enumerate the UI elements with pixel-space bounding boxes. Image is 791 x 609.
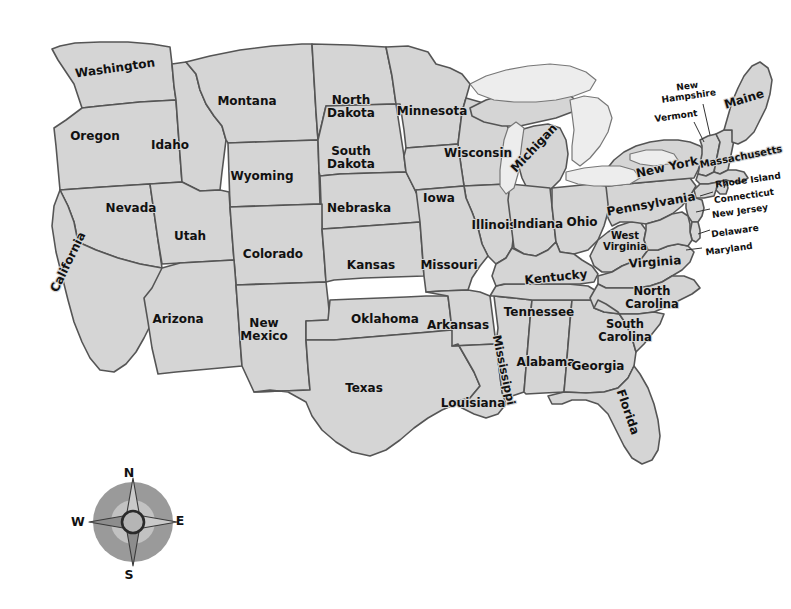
label-line: Oregon — [70, 129, 120, 143]
state-label-new-jersey[interactable]: New Jersey — [711, 202, 768, 220]
leader-vermont — [694, 122, 704, 142]
label-line: Oklahoma — [351, 312, 419, 326]
state-label-alabama[interactable]: Alabama — [517, 355, 576, 369]
state-label-louisiana[interactable]: Louisiana — [441, 396, 506, 410]
label-line: Vermont — [654, 107, 699, 123]
label-line: New — [249, 315, 278, 329]
label-line: Carolina — [625, 296, 679, 310]
label-line: Delaware — [711, 222, 760, 239]
label-line: Nebraska — [327, 201, 391, 215]
state-label-delaware[interactable]: Delaware — [711, 222, 760, 239]
state-label-north-dakota[interactable]: NorthDakota — [327, 92, 375, 119]
label-line: Iowa — [423, 191, 455, 205]
label-line: Colorado — [243, 247, 303, 261]
state-label-maryland[interactable]: Maryland — [705, 240, 753, 256]
label-line: Ohio — [566, 215, 597, 229]
label-line: Dakota — [327, 105, 375, 119]
state-label-tennessee[interactable]: Tennessee — [504, 305, 575, 319]
lake-erie — [566, 166, 640, 186]
state-label-south-carolina[interactable]: SouthCarolina — [598, 316, 652, 343]
label-line: Arizona — [152, 312, 203, 326]
state-label-wisconsin[interactable]: Wisconsin — [444, 146, 512, 160]
label-line: North — [634, 283, 671, 297]
label-line: Carolina — [598, 329, 652, 343]
label-line: Wyoming — [230, 169, 293, 183]
state-label-new-hampshire[interactable]: NewHampshire — [659, 77, 716, 104]
state-tennessee[interactable] — [490, 284, 598, 300]
label-line: North — [332, 92, 370, 106]
label-line: Illinois — [472, 218, 517, 232]
state-washington[interactable] — [52, 42, 176, 108]
state-label-south-dakota[interactable]: SouthDakota — [327, 143, 375, 170]
us-map-container: WashingtonOregonIdahoMontanaWyomingNorth… — [0, 0, 791, 609]
label-line: Alabama — [517, 355, 576, 369]
label-line: Wisconsin — [444, 146, 512, 160]
state-colorado[interactable] — [230, 204, 326, 285]
label-line: Louisiana — [441, 396, 506, 410]
label-line: Minnesota — [397, 104, 468, 118]
label-line: Missouri — [420, 258, 477, 272]
compass-rose: N S W E — [71, 465, 184, 582]
label-line: Nevada — [106, 201, 157, 215]
state-label-nevada[interactable]: Nevada — [106, 201, 157, 215]
state-utah[interactable] — [150, 182, 234, 264]
compass-label-west: W — [71, 514, 85, 529]
state-label-arkansas[interactable]: Arkansas — [427, 318, 489, 332]
lake-huron — [570, 96, 612, 166]
state-label-idaho[interactable]: Idaho — [151, 138, 189, 152]
state-label-wyoming[interactable]: Wyoming — [230, 169, 293, 183]
label-line: Idaho — [151, 138, 189, 152]
lake-superior — [470, 64, 596, 102]
label-line: Arkansas — [427, 318, 489, 332]
label-line: Kansas — [347, 258, 395, 272]
state-label-nebraska[interactable]: Nebraska — [327, 201, 391, 215]
compass-label-north: N — [124, 465, 134, 480]
label-line: New Jersey — [711, 202, 768, 220]
label-line: West — [611, 230, 639, 241]
state-label-arizona[interactable]: Arizona — [152, 312, 203, 326]
state-label-vermont[interactable]: Vermont — [654, 107, 699, 123]
state-label-colorado[interactable]: Colorado — [243, 247, 303, 261]
state-label-missouri[interactable]: Missouri — [420, 258, 477, 272]
state-label-utah[interactable]: Utah — [174, 229, 206, 243]
state-label-montana[interactable]: Montana — [217, 94, 276, 108]
compass-center-ring — [122, 511, 144, 533]
state-label-oregon[interactable]: Oregon — [70, 129, 120, 143]
label-line: Tennessee — [504, 305, 575, 319]
state-label-iowa[interactable]: Iowa — [423, 191, 455, 205]
state-label-georgia[interactable]: Georgia — [572, 359, 625, 373]
leader-new-hampshire — [703, 104, 710, 135]
state-label-texas[interactable]: Texas — [345, 381, 383, 395]
label-line: Utah — [174, 229, 206, 243]
state-label-kansas[interactable]: Kansas — [347, 258, 395, 272]
label-line: Mexico — [240, 328, 287, 342]
us-states-map: WashingtonOregonIdahoMontanaWyomingNorth… — [0, 0, 791, 609]
label-line: Maryland — [705, 240, 753, 256]
label-line: Texas — [345, 381, 383, 395]
label-line: South — [331, 143, 371, 157]
compass-label-south: S — [124, 567, 133, 582]
label-line: Georgia — [572, 359, 625, 373]
state-label-indiana[interactable]: Indiana — [513, 217, 563, 231]
compass-label-east: E — [176, 513, 185, 528]
label-line: Montana — [217, 94, 276, 108]
label-line: Dakota — [327, 156, 375, 170]
label-line: South — [606, 316, 644, 330]
label-line: Indiana — [513, 217, 563, 231]
state-label-illinois[interactable]: Illinois — [472, 218, 517, 232]
state-kansas[interactable] — [322, 222, 424, 282]
state-label-minnesota[interactable]: Minnesota — [397, 104, 468, 118]
state-label-oklahoma[interactable]: Oklahoma — [351, 312, 419, 326]
state-label-ohio[interactable]: Ohio — [566, 215, 597, 229]
label-line: Virginia — [603, 241, 647, 252]
